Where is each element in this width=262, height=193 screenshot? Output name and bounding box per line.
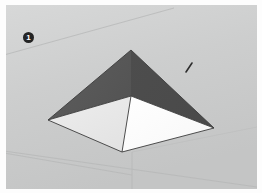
render-viewport[interactable]: 1 bbox=[6, 5, 257, 189]
annotation-badge-1[interactable]: 1 bbox=[23, 32, 34, 43]
pyramid-scene-svg bbox=[6, 5, 257, 189]
screenshot-root: 1 bbox=[0, 0, 262, 193]
